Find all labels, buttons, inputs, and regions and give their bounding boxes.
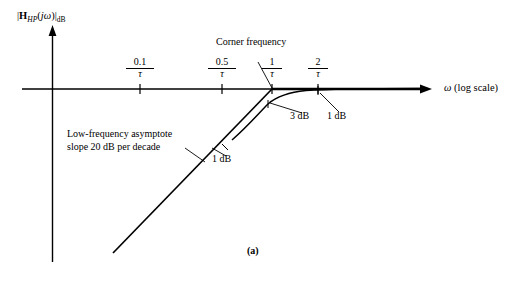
tick-label-0p1-over-tau: 0.1 τ — [126, 57, 154, 79]
annotation-1db-left: 1 dB — [212, 153, 231, 164]
tick-label-0p5-numerator: 0.5 — [208, 57, 236, 69]
x-axis-label-scale: (log scale) — [454, 82, 498, 93]
annotation-1db-right: 1 dB — [327, 110, 346, 121]
tick-label-1-numerator: 1 — [262, 57, 282, 69]
annotation-low-frequency-asymptote: Low-frequency asymptote slope 20 dB per … — [67, 128, 172, 154]
tick-label-0p1-numerator: 0.1 — [126, 57, 154, 69]
tick-label-2-over-tau: 2 τ — [308, 57, 328, 79]
annotation-corner-frequency: Corner frequency — [216, 36, 286, 47]
annotation-low-frequency-line1: Low-frequency asymptote — [67, 128, 172, 139]
marker-1db-left — [222, 144, 228, 150]
y-axis-label-hp-subscript: HP — [27, 15, 37, 24]
x-axis-label-omega: ω — [444, 82, 451, 93]
y-axis-label-omega: ω — [44, 10, 51, 21]
low-frequency-asymptote-line — [113, 89, 272, 253]
bode-plot-figure: |HHP(jω)|dB ω (log scale) 0.1 τ 0.5 τ 1 … — [0, 0, 508, 283]
annotation-low-frequency-line2: slope 20 dB per decade — [67, 141, 160, 152]
y-axis — [49, 25, 57, 262]
tick-label-0p5-denominator: τ — [208, 69, 236, 80]
tick-label-2-denominator: τ — [308, 69, 328, 80]
x-axis-label: ω (log scale) — [444, 82, 498, 93]
tick-label-1-denominator: τ — [262, 69, 282, 80]
annotation-3db: 3 dB — [290, 110, 309, 121]
leader-low-frequency-asymptote — [185, 148, 205, 162]
magnitude-response-curve — [232, 89, 420, 140]
tick-label-0p1-denominator: τ — [126, 69, 154, 80]
tick-label-2-numerator: 2 — [308, 57, 328, 69]
tick-label-1-over-tau: 1 τ — [262, 57, 282, 79]
tick-label-0p5-over-tau: 0.5 τ — [208, 57, 236, 79]
y-axis-label: |HHP(jω)|dB — [17, 10, 66, 24]
figure-caption: (a) — [247, 245, 259, 256]
y-axis-label-db-subscript: dB — [57, 15, 66, 24]
